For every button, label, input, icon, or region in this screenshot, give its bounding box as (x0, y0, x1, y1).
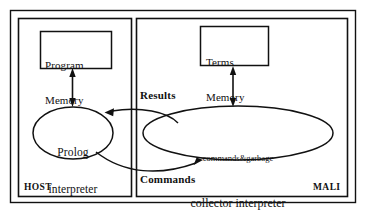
prolog-interpreter-label-line1: Prolog (33, 146, 113, 158)
terms-memory-label: Terms Memory (206, 33, 244, 128)
mali-zone-label: MALI (313, 182, 340, 192)
program-memory-label-line2: Memory (45, 95, 84, 107)
host-zone-label: HOST (24, 182, 52, 192)
collector-interpreter-label-line1: commands&garbage (158, 154, 318, 163)
collector-interpreter-label: commands&garbage collector interpreter (158, 119, 318, 214)
diagram-canvas: Program Memory Terms Memory Prolog inter… (0, 0, 367, 214)
commands-arrow-label: Commands (140, 174, 195, 186)
collector-interpreter-label-line2: collector interpreter (158, 197, 318, 210)
prolog-interpreter-label: Prolog interpreter (33, 121, 113, 214)
terms-memory-label-line1: Terms (206, 57, 244, 69)
results-arrow-label: Results (140, 90, 176, 102)
terms-memory-label-line2: Memory (206, 92, 244, 104)
program-memory-label-line1: Program (45, 60, 84, 72)
program-memory-label: Program Memory (45, 36, 84, 131)
